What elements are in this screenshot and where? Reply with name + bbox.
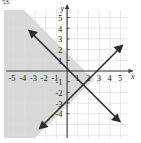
y-tick-label-neg1: -1: [56, 77, 63, 87]
y-tick-label-neg2: -2: [56, 88, 63, 98]
x-tick-label-neg3: -3: [30, 73, 37, 83]
y-tick-label-2: 2: [58, 45, 62, 55]
y-tick-label-5: 5: [58, 13, 62, 23]
x-tick-label-4: 4: [107, 73, 112, 83]
y-tick-label-3: 3: [58, 34, 62, 44]
x-tick-label-5: 5: [118, 73, 122, 83]
x-tick-label-neg5: -5: [9, 73, 16, 83]
coordinate-plane-graph: -5 -4 -3 -2 -1 1 2 3 4 5 5 4 3 2 1 -1 -2…: [0, 0, 141, 143]
x-tick-label-1: 1: [75, 73, 79, 83]
x-tick-label-3: 3: [97, 73, 101, 83]
y-tick-label-neg4: -4: [56, 109, 64, 119]
x-tick-label-2: 2: [86, 73, 90, 83]
figure-container: 53.: [0, 0, 141, 143]
y-tick-label-1: 1: [58, 56, 62, 66]
y-axis-arrow-icon: [65, 4, 69, 9]
x-axis-label: x: [130, 72, 135, 81]
y-tick-label-neg3: -3: [56, 99, 63, 109]
x-tick-label-neg4: -4: [19, 73, 27, 83]
x-tick-label-neg2: -2: [41, 73, 48, 83]
y-axis-label: y: [60, 4, 65, 13]
